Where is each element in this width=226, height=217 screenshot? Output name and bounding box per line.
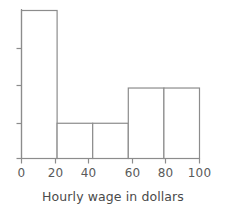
x-axis-title: Hourly wage in dollars [0, 189, 226, 204]
bar-bin-60-80 [128, 88, 164, 158]
x-tick-label-40: 40 [74, 166, 104, 180]
x-tick-label-80: 80 [151, 166, 181, 180]
histogram-figure: 0 20 40 60 80 100 Hourly wage in dollars [0, 0, 226, 217]
x-tick-label-0: 0 [7, 166, 37, 180]
x-tick-label-100: 100 [185, 166, 215, 180]
y-tick-marks [17, 49, 22, 159]
bar-group [22, 11, 200, 159]
bar-bin-40-60 [93, 123, 129, 158]
bar-bin-20-40 [57, 123, 93, 158]
x-tick-label-20: 20 [41, 166, 71, 180]
x-tick-marks [22, 159, 200, 164]
x-tick-label-60: 60 [118, 166, 148, 180]
bar-bin-0-20 [22, 11, 58, 159]
bar-bin-80-100 [164, 88, 200, 158]
histogram-plot-area [0, 0, 226, 217]
